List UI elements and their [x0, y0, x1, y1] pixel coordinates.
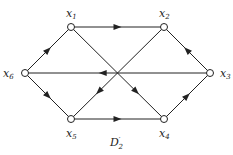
diagram-caption: D′2 — [109, 136, 123, 151]
node-x5 — [68, 116, 75, 123]
arrowhead-icon — [114, 24, 122, 30]
edges — [25, 24, 210, 122]
node-label-x1: x1 — [66, 7, 77, 21]
node-x6 — [22, 70, 29, 77]
node-label-x2: x2 — [159, 7, 170, 21]
node-label-x4: x4 — [159, 127, 170, 141]
node-x3 — [207, 70, 214, 77]
node-label-x5: x5 — [66, 127, 77, 141]
node-label-x6: x6 — [3, 67, 14, 81]
digraph: x1x2x3x4x5x6 D′2 — [0, 0, 233, 155]
node-x4 — [161, 116, 168, 123]
node-label-x3: x3 — [220, 67, 231, 81]
arrowhead-icon — [114, 116, 122, 122]
node-x1 — [68, 24, 75, 31]
arrowhead-icon — [99, 70, 107, 76]
node-x2 — [161, 24, 168, 31]
